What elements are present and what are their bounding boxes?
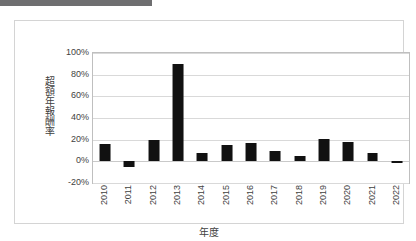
x-tick-label: 2019 xyxy=(318,185,328,205)
y-axis-title: 超額年報酬率 xyxy=(39,76,53,136)
y-tick-label: 100% xyxy=(66,47,89,57)
bar-slot xyxy=(142,53,166,183)
bar-slot xyxy=(287,53,311,183)
bar-2014[interactable] xyxy=(197,153,208,162)
gridline xyxy=(93,183,409,184)
bar-2017[interactable] xyxy=(270,151,281,162)
bar-slot xyxy=(263,53,287,183)
x-tick-label: 2010 xyxy=(99,185,109,205)
x-tick-label: 2020 xyxy=(342,185,352,205)
y-tick-label: 0% xyxy=(76,155,89,165)
x-tick-label: 2014 xyxy=(196,185,206,205)
y-tick-label: 40% xyxy=(71,112,89,122)
x-tick-label: 2015 xyxy=(221,185,231,205)
bar-2010[interactable] xyxy=(100,144,111,161)
bar-2018[interactable] xyxy=(294,156,305,161)
redacted-header-bar xyxy=(0,0,152,6)
x-tick-label: 2013 xyxy=(172,185,182,205)
y-axis-tick-labels: 100%80%60%40%20%0%-20% xyxy=(55,47,89,157)
y-tick-label: 80% xyxy=(71,69,89,79)
bar-2011[interactable] xyxy=(124,161,135,166)
x-tick-label: 2016 xyxy=(245,185,255,205)
bar-slot xyxy=(385,53,409,183)
x-axis-title: 年度 xyxy=(15,224,403,239)
bar-2020[interactable] xyxy=(343,142,354,162)
bar-slot xyxy=(215,53,239,183)
y-tick-label: -20% xyxy=(68,177,89,187)
plot-area xyxy=(92,52,410,184)
x-tick-label: 2011 xyxy=(123,185,133,204)
bar-slot xyxy=(93,53,117,183)
x-tick-label: 2022 xyxy=(391,185,401,205)
x-tick-label: 2018 xyxy=(294,185,304,205)
bar-slot xyxy=(360,53,384,183)
bar-slot xyxy=(336,53,360,183)
bar-2021[interactable] xyxy=(367,153,378,162)
bar-slot xyxy=(166,53,190,183)
x-axis-tick-labels: 2010201120122013201420152016201720182019… xyxy=(92,185,410,221)
x-tick-label: 2021 xyxy=(367,185,377,205)
bar-slot xyxy=(312,53,336,183)
y-tick-label: 20% xyxy=(71,134,89,144)
bar-2015[interactable] xyxy=(221,145,232,161)
bar-2016[interactable] xyxy=(246,143,257,161)
bar-slot xyxy=(239,53,263,183)
bar-slot xyxy=(190,53,214,183)
bar-series xyxy=(93,53,409,183)
bar-slot xyxy=(117,53,141,183)
bar-2013[interactable] xyxy=(173,64,184,162)
bar-2012[interactable] xyxy=(148,140,159,162)
x-tick-label: 2017 xyxy=(269,185,279,205)
bar-2022[interactable] xyxy=(391,161,402,163)
y-tick-label: 60% xyxy=(71,90,89,100)
chart-container: 超額年報酬率 100%80%60%40%20%0%-20% 2010201120… xyxy=(14,20,404,224)
bar-2019[interactable] xyxy=(318,139,329,162)
x-tick-label: 2012 xyxy=(148,185,158,205)
